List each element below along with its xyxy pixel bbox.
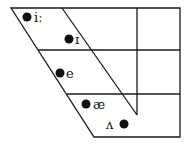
vowel-label: æ bbox=[93, 97, 105, 112]
vowel-dot bbox=[82, 100, 91, 109]
vowel-label: ʌ bbox=[105, 117, 114, 132]
trapezoid-outline bbox=[11, 8, 180, 137]
vowel-ʌ: ʌ bbox=[105, 117, 129, 132]
vowel-dot bbox=[120, 120, 129, 129]
vowel-chart: iː ɪ e æ ʌ bbox=[0, 0, 191, 145]
vowel-dot bbox=[23, 13, 32, 22]
vowel-æ: æ bbox=[82, 97, 106, 112]
vowel-dot bbox=[56, 69, 65, 78]
vowel-label: ɪ bbox=[75, 32, 79, 47]
vowel-dot bbox=[65, 35, 74, 44]
vowel-e: e bbox=[56, 66, 75, 81]
vowel-label: e bbox=[66, 66, 74, 81]
vowel-iː: iː bbox=[23, 10, 43, 25]
vowel-label: iː bbox=[34, 10, 43, 25]
vowel-ɪ: ɪ bbox=[65, 32, 80, 47]
